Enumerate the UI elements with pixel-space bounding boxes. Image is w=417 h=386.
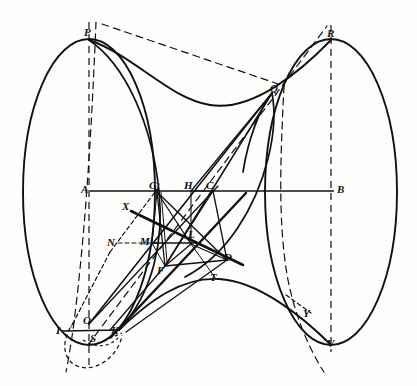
dashed-generator-upper-left-to-Q xyxy=(102,24,284,86)
label-V: V xyxy=(327,338,334,349)
bottom-waist-curve xyxy=(119,279,331,345)
generator-Q-to-O xyxy=(89,93,272,324)
label-K: K xyxy=(111,325,118,336)
top-waist-curve xyxy=(89,40,331,106)
thick-generator-K-to-upper-right xyxy=(112,193,246,336)
generator-H-to-Q xyxy=(191,93,272,191)
label-I: I xyxy=(56,325,60,336)
figure-canvas: P R Q A B G H C X N M L D F T Y I O K S … xyxy=(0,0,417,386)
label-N: N xyxy=(107,237,115,248)
label-L: L xyxy=(188,229,195,240)
label-F: F xyxy=(157,265,164,276)
label-M: M xyxy=(140,236,150,247)
dashed-generator-PS xyxy=(66,22,96,372)
solid-generators xyxy=(63,93,272,336)
label-O: O xyxy=(83,315,91,326)
label-Y: Y xyxy=(303,308,310,319)
label-H: H xyxy=(184,180,193,191)
label-B: B xyxy=(337,184,344,195)
geometric-diagram-svg xyxy=(0,0,417,386)
label-R: R xyxy=(327,28,334,39)
segment-F-to-D xyxy=(165,260,227,266)
label-G: G xyxy=(149,180,157,191)
label-C: C xyxy=(206,180,213,191)
label-Q: Q xyxy=(270,83,278,94)
right-ellipse xyxy=(265,39,397,345)
dashed-generator-Q-to-V xyxy=(281,86,324,372)
label-D: D xyxy=(224,252,232,263)
label-S: S xyxy=(90,333,96,344)
label-T: T xyxy=(210,272,217,283)
label-P: P xyxy=(84,27,91,38)
label-X: X xyxy=(122,201,129,212)
label-A: A xyxy=(81,184,88,195)
